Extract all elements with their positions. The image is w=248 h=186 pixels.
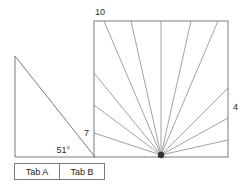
ray-left-2 <box>94 105 161 155</box>
triangle-hypotenuse <box>15 56 95 157</box>
ray-right-2 <box>161 118 228 155</box>
tab-b[interactable]: Tab B <box>59 164 104 179</box>
label-mid-left: 7 <box>84 128 89 138</box>
ray-top-4 <box>161 21 191 155</box>
tab-a-label: Tab A <box>26 167 49 177</box>
ray-fan <box>94 21 228 155</box>
ray-right-1 <box>161 88 228 155</box>
ray-left-3 <box>94 73 161 155</box>
ray-left-1 <box>94 133 161 155</box>
label-angle: 51° <box>56 145 70 155</box>
tab-bar: Tab A Tab B <box>14 163 105 180</box>
label-top-left: 10 <box>95 7 105 17</box>
tab-b-label: Tab B <box>70 167 93 177</box>
label-right: 4 <box>233 102 238 112</box>
fan-hub-point <box>158 152 164 158</box>
geometry-figure: 10 4 7 51° <box>0 0 248 186</box>
tab-a[interactable]: Tab A <box>15 164 59 179</box>
triangle-group <box>15 56 95 157</box>
square-group <box>94 21 228 158</box>
ray-right-3 <box>161 140 228 155</box>
ray-top-2 <box>131 21 161 155</box>
diagram-canvas: 10 4 7 51° Tab A Tab B <box>0 0 248 186</box>
ray-top-5 <box>161 21 218 155</box>
ray-top-1 <box>104 21 161 155</box>
